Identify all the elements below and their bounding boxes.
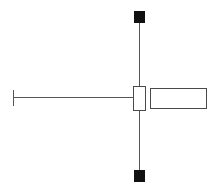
bottom-square-marker	[135, 170, 145, 181]
junction-box	[134, 87, 146, 111]
right-rectangle	[151, 89, 207, 109]
top-square-marker	[135, 12, 145, 23]
diagram-canvas	[0, 0, 213, 196]
schematic-line-drawing	[0, 0, 213, 196]
